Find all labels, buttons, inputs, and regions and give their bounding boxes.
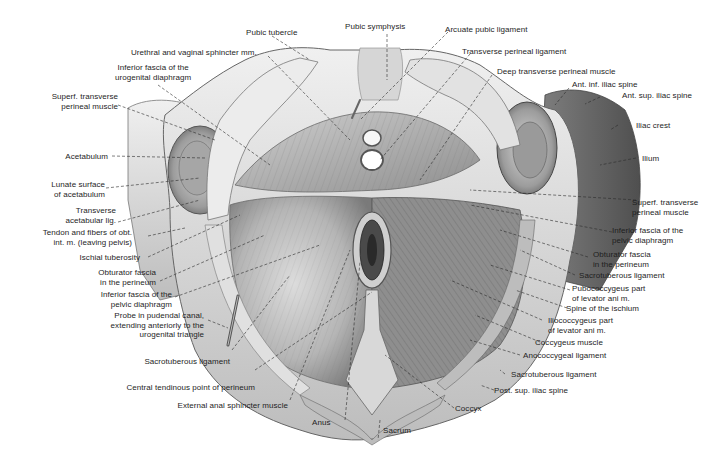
label-inferior-fascia-pelvic-right: Inferior fascia of the pelvic diaphragm [612, 226, 683, 245]
label-pubococcygeus: Pubococcygeus part of levator ani m. [572, 284, 645, 303]
pubic-symphysis-shape [358, 48, 403, 100]
label-inferior-fascia-pelvic-left: Inferior fascia of the pelvic diaphragm [70, 290, 172, 309]
label-sacrotuberous-right-upper: Sacrotuberous ligament [579, 271, 665, 281]
label-tendon-obt-int: Tendon and fibers of obt. int. m. (leavi… [20, 228, 132, 247]
label-ischial-tuberosity: Ischial tuberosity [60, 253, 140, 263]
label-anococcygeal-ligament: Anococcygeal ligament [523, 351, 606, 361]
label-post-sup-iliac-spine: Post. sup. iliac spine [494, 386, 568, 396]
label-acetabulum: Acetabulum [40, 152, 108, 162]
label-central-tendinous-point: Central tendinous point of perineum [100, 383, 255, 393]
vaginal-opening [361, 150, 383, 170]
label-coccygeus-muscle: Coccygeus muscle [535, 338, 603, 348]
label-ilium: Ilium [642, 154, 659, 164]
label-pubic-tubercle: Pubic tubercle [246, 28, 297, 38]
label-iliac-crest: Iliac crest [636, 121, 670, 131]
label-anus: Anus [312, 418, 330, 428]
anatomical-figure: Pubic tubercle Pubic symphysis Arcuate p… [0, 0, 713, 455]
urethral-opening [363, 130, 381, 146]
label-probe-pudendal-canal: Probe in pudendal canal, extending anter… [80, 311, 204, 340]
label-external-anal-sphincter: External anal sphincter muscle [150, 401, 288, 411]
label-sacrum: Sacrum [383, 426, 411, 436]
label-transverse-acetabular-lig: Transverse acetabular lig. [40, 206, 116, 225]
label-ant-sup-iliac-spine: Ant. sup. iliac spine [622, 91, 692, 101]
label-inferior-fascia-urogenital: Inferior fascia of the urogenital diaphr… [115, 63, 191, 82]
label-deep-transverse-perineal: Deep transverse perineal muscle [497, 67, 616, 77]
label-obturator-fascia-right: Obturator fascia in the perineum [593, 250, 651, 269]
label-arcuate-pubic-ligament: Arcuate pubic ligament [445, 25, 527, 35]
label-ant-inf-iliac-spine: Ant. inf. iliac spine [572, 80, 638, 90]
label-spine-ischium: Spine of the ischium [566, 304, 639, 314]
label-urethral-vaginal-sphincter: Urethral and vaginal sphincter mm. [131, 48, 257, 58]
label-iliococcygeus: Iliococcygeus part of levator ani m. [548, 316, 613, 335]
label-obturator-fascia-left: Obturator fascia in the perineum [80, 268, 156, 287]
label-lunate-surface: Lunate surface of acetabulum [30, 180, 105, 199]
label-coccyx: Coccyx [455, 404, 482, 414]
label-transverse-perineal-ligament: Transverse perineal ligament [462, 47, 566, 57]
label-pubic-symphysis: Pubic symphysis [345, 22, 405, 32]
label-superf-transverse-perineal-right: Superf. transverse perineal muscle [632, 198, 698, 217]
label-sacrotuberous-right-lower: Sacrotuberous ligament [511, 370, 597, 380]
label-superf-transverse-perineal-left: Superf. transverse perineal muscle [40, 92, 118, 111]
label-sacrotuberous-left: Sacrotuberous ligament [110, 357, 230, 367]
